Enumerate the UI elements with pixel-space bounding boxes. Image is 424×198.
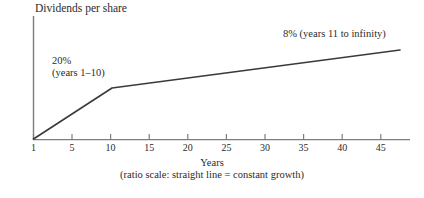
x-tick-label-15: 15 [144, 142, 154, 153]
x-tick-label-30: 30 [260, 142, 270, 153]
x-axis-caption: Years (ratio scale: straight line = cons… [0, 157, 424, 182]
x-tick-label-10: 10 [106, 142, 116, 153]
x-tick-label-5: 5 [70, 142, 75, 153]
x-tick-label-35: 35 [299, 142, 309, 153]
x-axis-label: Years [0, 157, 424, 169]
annotation-high-growth-rate: 20% [52, 55, 71, 66]
annotation-steady-growth: 8% (years 11 to infinity) [283, 28, 386, 40]
x-tick-label-40: 40 [337, 142, 347, 153]
x-tick-label-1: 1 [31, 142, 36, 153]
x-tick-label-25: 25 [221, 142, 231, 153]
y-axis-title: Dividends per share [35, 2, 127, 16]
dividend-growth-chart: Dividends per share 20% (years 1–10) 8% … [0, 0, 424, 198]
annotation-high-growth-period: (years 1–10) [52, 67, 105, 79]
x-tick-label-45: 45 [376, 142, 386, 153]
x-axis-scale-note: (ratio scale: straight line = constant g… [0, 169, 424, 181]
x-tick-label-20: 20 [183, 142, 193, 153]
annotation-high-growth: 20% (years 1–10) [52, 55, 105, 80]
